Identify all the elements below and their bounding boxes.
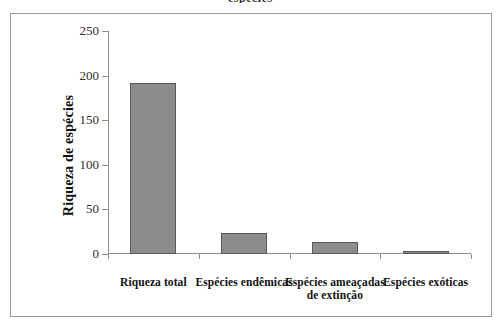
figure-frame: Riqueza de espécies 050100150200250 Riqu… xyxy=(10,13,492,317)
figure-page: espécies Riqueza de espécies 05010015020… xyxy=(0,0,504,332)
bar-slot xyxy=(199,233,290,254)
bar[interactable] xyxy=(312,242,358,254)
caption-fragment: espécies xyxy=(228,0,288,3)
y-axis-tick-label: 0 xyxy=(93,246,100,262)
x-axis-tick xyxy=(290,254,291,259)
y-axis-tick xyxy=(102,31,108,32)
bar[interactable] xyxy=(130,83,176,254)
y-axis-tick-label: 50 xyxy=(86,201,99,217)
bar-slot xyxy=(380,251,471,254)
y-axis-tick-label: 150 xyxy=(80,112,100,128)
y-axis-title: Riqueza de espécies xyxy=(60,44,78,267)
x-axis-category-label: Riqueza total xyxy=(102,276,205,289)
x-axis-category-label: Espécies ameaçadas de extinção xyxy=(284,276,387,302)
bar[interactable] xyxy=(221,233,267,254)
x-axis-tick xyxy=(380,254,381,259)
y-axis-tick-label: 100 xyxy=(80,157,100,173)
bar-slot xyxy=(290,242,381,254)
x-axis-category-label: Espécies exóticas xyxy=(374,276,477,289)
x-axis-tick xyxy=(199,254,200,259)
x-axis-category-label: Espécies endêmicas xyxy=(193,276,296,289)
y-axis-tick-label: 200 xyxy=(80,68,100,84)
bar-slot xyxy=(108,83,199,254)
x-axis-tick xyxy=(108,254,109,259)
plot-area: 050100150200250 xyxy=(108,31,471,254)
bar[interactable] xyxy=(403,251,449,254)
y-axis-tick-label: 250 xyxy=(80,23,100,39)
y-axis-tick xyxy=(102,76,108,77)
x-axis-tick xyxy=(471,254,472,259)
